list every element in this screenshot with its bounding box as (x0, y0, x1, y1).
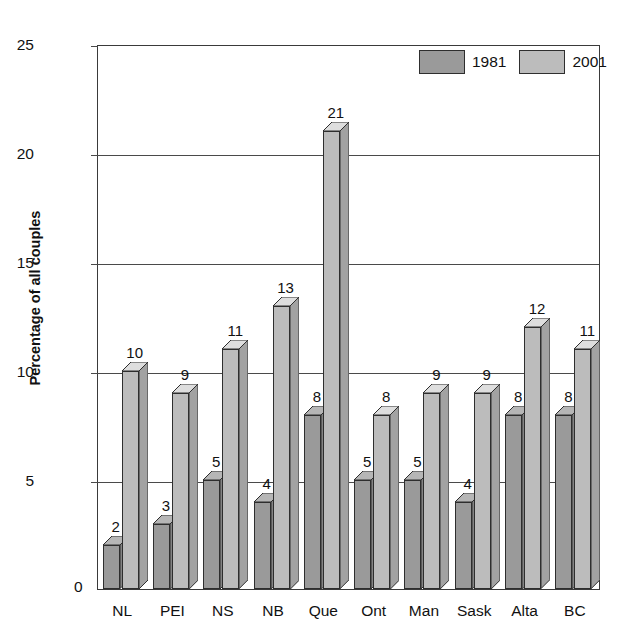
bar-Sask-1981 (455, 502, 472, 589)
data-label-Man-2001: 9 (432, 366, 440, 383)
bar-face (304, 415, 321, 589)
x-axis-label-Que: Que (309, 602, 338, 620)
legend-item-2001: 2001 (519, 50, 606, 74)
legend-label-1981: 1981 (472, 53, 506, 71)
data-label-PEI-2001: 9 (181, 366, 189, 383)
x-axis-label-Sask: Sask (457, 602, 491, 620)
data-label-Sask-2001: 9 (483, 366, 491, 383)
bar-side (541, 318, 550, 589)
bar-side (340, 122, 349, 589)
bar-face (122, 371, 139, 589)
x-axis-label-NS: NS (212, 602, 234, 620)
bar-face (404, 480, 421, 589)
y-axis-zero-label: 0 (74, 578, 83, 596)
bar-face (354, 480, 371, 589)
legend: 1981 2001 (419, 50, 607, 74)
bar-NS-2001 (222, 349, 239, 589)
bar-Alta-1981 (505, 415, 522, 589)
bar-face (153, 524, 170, 589)
bar-Que-1981 (304, 415, 321, 589)
bar-face (203, 480, 220, 589)
data-label-Que-1981: 8 (313, 388, 321, 405)
bar-NL-1981 (103, 545, 120, 589)
bar-face (273, 306, 290, 589)
data-label-PEI-1981: 3 (162, 497, 170, 514)
bar-BC-2001 (574, 349, 591, 589)
plot-area: 21039511413821585949812811 (97, 45, 600, 590)
x-axis-label-NB: NB (262, 602, 284, 620)
bar-PEI-1981 (153, 524, 170, 589)
bar-side (390, 406, 399, 589)
bar-BC-1981 (555, 415, 572, 589)
bar-chart: Percentage of all couples 510152025 0 21… (0, 0, 638, 644)
bar-side (139, 362, 148, 589)
y-axis-tick-15: 15 (0, 254, 34, 272)
bar-side (189, 384, 198, 589)
x-axis-label-Man: Man (409, 602, 439, 620)
y-axis-tick-mark (91, 264, 98, 265)
bar-face (474, 393, 491, 589)
data-label-Que-2001: 21 (328, 104, 345, 121)
bar-Man-1981 (404, 480, 421, 589)
x-axis-label-Alta: Alta (511, 602, 538, 620)
data-label-NB-1981: 4 (262, 475, 270, 492)
y-axis-tick-20: 20 (0, 145, 34, 163)
bar-Sask-2001 (474, 393, 491, 589)
bar-face (103, 545, 120, 589)
data-label-NL-2001: 10 (126, 344, 143, 361)
x-axis-label-Ont: Ont (361, 602, 386, 620)
bar-Man-2001 (423, 393, 440, 589)
data-label-Ont-2001: 8 (382, 388, 390, 405)
bar-NB-1981 (254, 502, 271, 589)
bar-face (172, 393, 189, 589)
bar-PEI-2001 (172, 393, 189, 589)
x-axis-label-PEI: PEI (160, 602, 185, 620)
legend-swatch-2001 (519, 50, 565, 74)
data-label-Alta-2001: 12 (529, 300, 546, 317)
y-axis-tick-mark (91, 482, 98, 483)
bar-face (524, 327, 541, 589)
bar-face (455, 502, 472, 589)
bar-face (423, 393, 440, 589)
data-label-BC-2001: 11 (580, 322, 596, 339)
y-axis-title: Percentage of all couples (27, 168, 43, 428)
data-label-Man-1981: 5 (413, 453, 421, 470)
bar-Alta-2001 (524, 327, 541, 589)
legend-label-2001: 2001 (572, 53, 606, 71)
bar-face (373, 415, 390, 589)
data-label-Sask-1981: 4 (464, 475, 472, 492)
data-label-BC-1981: 8 (564, 388, 572, 405)
bar-side (239, 340, 248, 589)
x-axis-label-NL: NL (112, 602, 132, 620)
legend-item-1981: 1981 (419, 50, 506, 74)
bar-face (555, 415, 572, 589)
bar-face (574, 349, 591, 589)
bar-side (440, 384, 449, 589)
y-axis-tick-5: 5 (0, 472, 34, 490)
bar-NB-2001 (273, 306, 290, 589)
y-axis-tick-25: 25 (0, 36, 34, 54)
bar-NL-2001 (122, 371, 139, 589)
legend-swatch-1981 (419, 50, 465, 74)
y-axis-tick-mark (91, 155, 98, 156)
data-label-NB-2001: 13 (277, 279, 294, 296)
bar-side (290, 297, 299, 589)
data-label-NS-1981: 5 (212, 453, 220, 470)
bar-face (505, 415, 522, 589)
bar-face (254, 502, 271, 589)
bar-Ont-1981 (354, 480, 371, 589)
bar-face (323, 131, 340, 589)
bar-Que-2001 (323, 131, 340, 589)
data-label-Alta-1981: 8 (514, 388, 522, 405)
y-axis-tick-mark (91, 46, 98, 47)
bar-side (591, 340, 600, 589)
data-label-Ont-1981: 5 (363, 453, 371, 470)
data-label-NS-2001: 11 (227, 322, 243, 339)
bar-Ont-2001 (373, 415, 390, 589)
bar-side (491, 384, 500, 589)
y-axis-tick-10: 10 (0, 363, 34, 381)
bar-face (222, 349, 239, 589)
y-axis-tick-mark (91, 373, 98, 374)
data-label-NL-1981: 2 (111, 518, 119, 535)
x-axis-label-BC: BC (564, 602, 586, 620)
